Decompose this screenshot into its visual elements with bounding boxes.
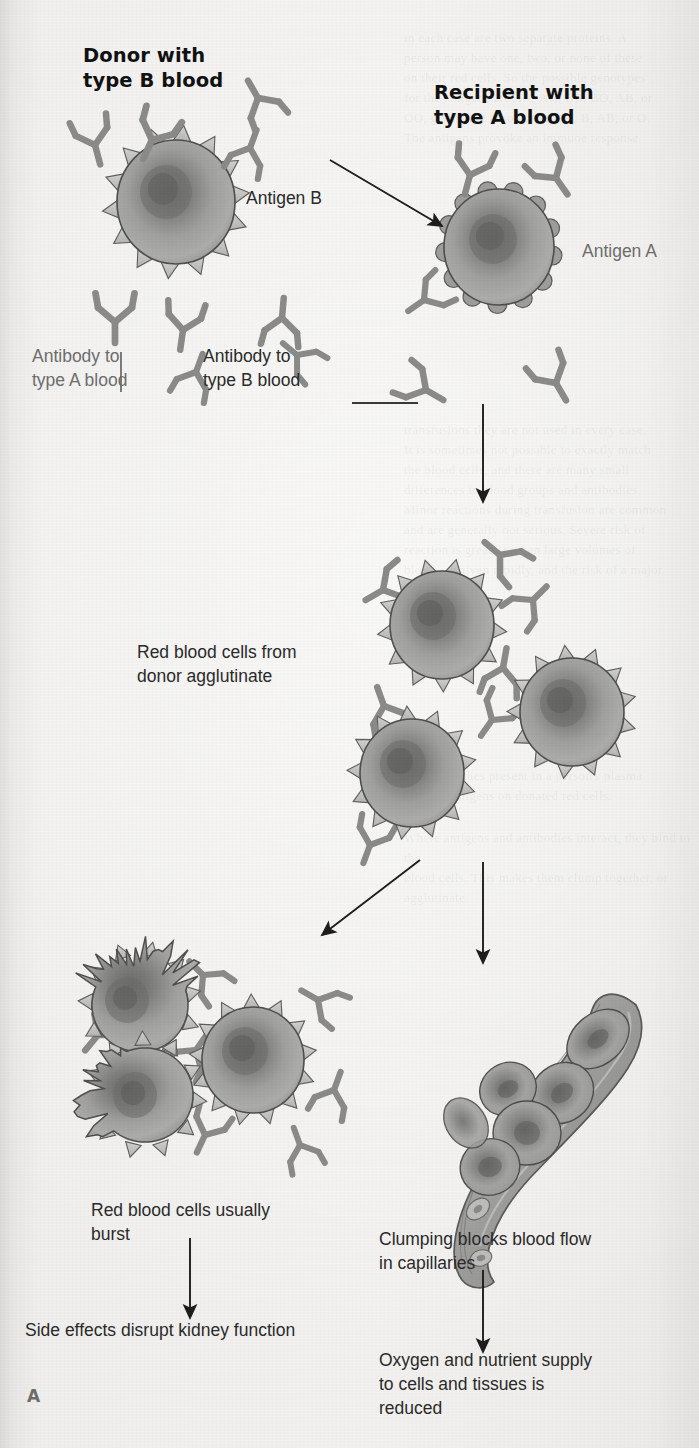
antibody-to-a-label: Antibody to type A blood bbox=[32, 344, 127, 392]
agglutinate-label: Red blood cells from donor agglutinate bbox=[137, 640, 297, 688]
donor-title: Donor with type B blood bbox=[83, 43, 223, 93]
oxygen-label: Oxygen and nutrient supply to cells and … bbox=[379, 1348, 592, 1420]
antibody-icon bbox=[347, 814, 396, 869]
figure-panel: in each case are two separate proteins. … bbox=[0, 0, 699, 1448]
antigen-b-spike bbox=[153, 1140, 168, 1156]
panel-letter: A bbox=[27, 1386, 40, 1406]
arrow-donor-to-recipient bbox=[330, 160, 442, 226]
kidney-label: Side effects disrupt kidney function bbox=[25, 1318, 295, 1342]
antibody-icon bbox=[96, 293, 135, 342]
antigen-a-label: Antigen A bbox=[582, 239, 657, 263]
clumping-label: Clumping blocks blood flow in capillarie… bbox=[379, 1227, 591, 1275]
recipient-cell-group bbox=[436, 182, 562, 314]
antibody-icon bbox=[308, 1066, 357, 1121]
antibody-icon bbox=[261, 296, 302, 347]
antigen-b-spike bbox=[78, 994, 92, 1010]
agglutinate-cluster bbox=[347, 560, 635, 839]
antibody-icon bbox=[70, 114, 119, 170]
arrow-agglutinate-to-burst bbox=[322, 860, 420, 935]
donor-cell-group bbox=[103, 125, 250, 278]
antibody-icon bbox=[232, 71, 288, 131]
antibody-icon bbox=[393, 360, 453, 416]
antibody-to-b-label: Antibody to type B blood bbox=[203, 344, 300, 392]
antibody-icon bbox=[502, 574, 560, 632]
antigen-b-spike bbox=[126, 1142, 142, 1158]
antibody-icon bbox=[292, 975, 349, 1029]
recipient-title: Recipient with type A blood bbox=[434, 80, 594, 130]
antibody-icon bbox=[162, 300, 206, 352]
antibody-icon bbox=[526, 350, 582, 410]
burst-label: Red blood cells usually burst bbox=[91, 1198, 270, 1246]
antibody-icon bbox=[277, 1122, 324, 1175]
antigen-b-label: Antigen B bbox=[246, 186, 322, 210]
